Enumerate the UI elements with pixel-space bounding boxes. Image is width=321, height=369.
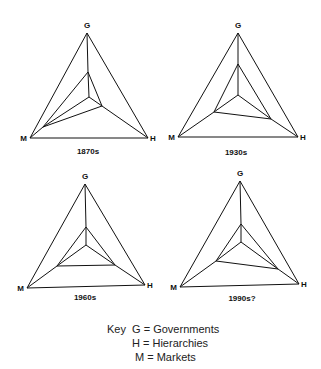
vertex-label-g: G [235, 21, 241, 30]
panel-1870s: GMH1870s [20, 21, 156, 156]
centre-spoke-m [214, 95, 238, 112]
key-entry-m: M = Markets [135, 350, 196, 364]
spoke-m [180, 261, 216, 287]
key-entry-h: H = Hierarchies [132, 336, 208, 350]
panel-1960s: GMH1960s [17, 172, 153, 302]
vertex-label-h: H [301, 280, 307, 289]
centre-spoke-h [86, 245, 115, 265]
spoke-m [27, 266, 57, 288]
key-title: Key [107, 323, 126, 335]
vertex-label-m: M [20, 134, 27, 143]
vertex-label-g: G [82, 172, 88, 181]
vertex-label-m: M [17, 284, 24, 293]
outer-edge-gm [178, 33, 238, 137]
inner-edge-gm [214, 64, 238, 112]
vertex-label-h: H [300, 133, 306, 142]
inner-edge-gh [86, 227, 115, 265]
panel-1990s: GMH1990s? [170, 169, 307, 303]
inner-edge-gh [238, 64, 271, 119]
spoke-h [271, 119, 298, 137]
outer-edge-gm [30, 33, 87, 138]
spoke-g [87, 33, 88, 72]
outer-edge-gm [27, 184, 85, 288]
vertex-label-h: H [147, 281, 153, 290]
vertex-label-g: G [237, 169, 243, 178]
vertex-label-m: M [168, 133, 175, 142]
era-label: 1930s [225, 148, 248, 157]
spoke-h [278, 269, 299, 284]
outer-edge-mh [180, 284, 299, 287]
era-label: 1990s? [228, 294, 255, 303]
outer-edge-gm [180, 181, 240, 287]
key-entry-g: Key G = Governments [107, 322, 219, 336]
spoke-g [240, 181, 241, 224]
inner-edge-gm [57, 227, 86, 266]
centre-spoke-m [216, 242, 241, 261]
vertex-label-h: H [150, 134, 156, 143]
vertex-label-m: M [170, 283, 177, 292]
spoke-h [102, 106, 148, 138]
key-governments: G = Governments [132, 323, 219, 335]
key-hierarchies: H = Hierarchies [132, 337, 208, 349]
outer-edge-gh [240, 181, 299, 284]
centre-spoke-g [88, 72, 89, 97]
spoke-m [178, 112, 214, 137]
spoke-g [85, 184, 86, 227]
governance-diagrams: GMH1870sGMH1930sGMH1960sGMH1990s? [0, 0, 321, 369]
vertex-label-g: G [84, 21, 90, 30]
outer-edge-mh [27, 285, 145, 288]
outer-edge-gh [87, 33, 148, 138]
panel-1930s: GMH1930s [168, 21, 306, 157]
spoke-m [30, 127, 43, 138]
era-label: 1960s [74, 293, 97, 302]
key-markets: M = Markets [135, 351, 196, 363]
inner-edge-mh [57, 265, 115, 266]
spoke-h [115, 265, 145, 285]
inner-edge-gm [216, 224, 241, 261]
outer-edge-gh [238, 33, 298, 137]
era-label: 1870s [77, 147, 100, 156]
centre-spoke-m [57, 245, 86, 266]
outer-edge-gh [85, 184, 145, 285]
